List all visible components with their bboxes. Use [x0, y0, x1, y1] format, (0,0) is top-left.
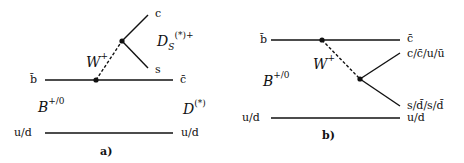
b-label-b-meson: B+/0 — [263, 73, 290, 88]
a-caption: a) — [100, 146, 112, 157]
b-caption: b) — [322, 130, 335, 141]
a-d-meson-sup: (*) — [194, 98, 206, 108]
b-out-upper-line — [360, 53, 400, 79]
b-b-meson-symbol: B — [263, 73, 273, 89]
a-label-c: c — [155, 8, 161, 19]
b-b-meson-charge: +/0 — [273, 70, 289, 80]
a-vertex-lower — [93, 77, 98, 82]
a-b-meson-symbol: B — [38, 99, 48, 115]
a-b-meson-charge: +/0 — [48, 96, 64, 106]
b-out-lower-line — [360, 79, 400, 106]
a-d-meson-symbol: D — [183, 101, 194, 117]
b-vertex-upper — [319, 37, 324, 42]
b-label-out-lower: s/d̄/s/d̄ — [407, 100, 444, 111]
a-ds-sup: (*)+ — [174, 30, 193, 40]
b-w-symbol: W — [313, 56, 327, 72]
a-label-ud-right: u/d — [181, 127, 199, 138]
a-out-s-line — [122, 41, 148, 68]
a-label-s: s — [155, 64, 161, 75]
b-label-b-bar: b̄ — [260, 34, 267, 45]
a-label-b-bar: b̄ — [30, 74, 37, 85]
a-w-symbol: W — [86, 54, 100, 70]
b-label-ud-left: u/d — [242, 112, 260, 123]
b-label-out-upper: c/c̄/u/ū — [407, 48, 445, 59]
a-label-b-meson: B+/0 — [38, 99, 65, 114]
diagram-a-lines — [45, 15, 173, 133]
a-label-w-boson: W+ — [86, 54, 108, 69]
a-vertex-upper — [119, 38, 124, 43]
a-w-charge: + — [100, 51, 108, 61]
b-label-ud-right: u/d — [407, 112, 425, 123]
a-out-c-line — [122, 15, 148, 41]
a-label-c-bar: c̄ — [180, 74, 186, 85]
diagram-lines — [0, 0, 464, 163]
b-label-w-boson: W+ — [313, 56, 335, 71]
a-label-d-meson: D(*) — [183, 101, 206, 116]
a-label-ud-left: u/d — [14, 127, 32, 138]
feynman-diagrams-figure: b̄ c̄ c s u/d u/d W+ B+/0 D(*) DS(*)+ a)… — [0, 0, 464, 163]
diagram-b-lines — [271, 37, 400, 118]
b-vertex-lower — [357, 76, 362, 81]
a-ds-symbol: D — [157, 33, 168, 49]
b-w-charge: + — [327, 53, 335, 63]
b-label-c-bar: c̄ — [407, 33, 413, 44]
a-label-ds-meson: DS(*)+ — [157, 33, 193, 48]
a-ds-sub: S — [168, 42, 174, 52]
